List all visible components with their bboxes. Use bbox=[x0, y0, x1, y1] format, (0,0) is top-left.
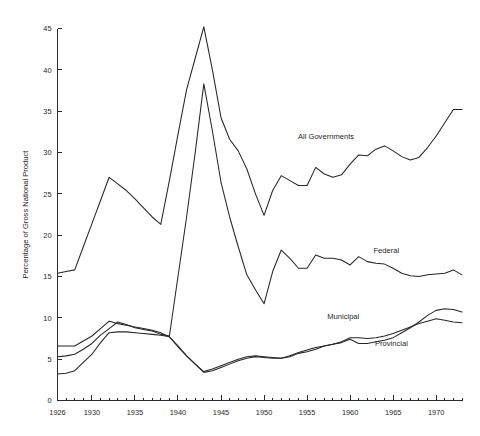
x-tick-label: 1940 bbox=[170, 408, 186, 417]
series-line-federal bbox=[58, 84, 463, 357]
y-tick-label: 10 bbox=[43, 314, 51, 323]
x-tick-label: 1930 bbox=[84, 408, 100, 417]
y-tick-label: 45 bbox=[43, 24, 51, 33]
y-tick-label: 0 bbox=[47, 396, 51, 405]
y-tick-label: 35 bbox=[43, 107, 51, 116]
line-chart: 0510152025303540451926193019351940194519… bbox=[0, 0, 480, 436]
x-tick-label: 1926 bbox=[49, 408, 65, 417]
x-tick-label: 1945 bbox=[213, 408, 229, 417]
series-label-federal: Federal bbox=[373, 246, 399, 255]
y-axis-title-text: Percentage of Gross National Product bbox=[21, 150, 30, 279]
y-tick-label: 5 bbox=[47, 355, 51, 364]
y-tick-label: 15 bbox=[43, 272, 51, 281]
chart-container: 0510152025303540451926193019351940194519… bbox=[0, 0, 480, 436]
series-label-all-governments: All Governments bbox=[298, 132, 354, 141]
y-tick-label: 20 bbox=[43, 231, 51, 240]
series-lines bbox=[58, 27, 463, 374]
y-axis-title: Percentage of Gross National Product bbox=[21, 150, 30, 279]
x-tick-label: 1960 bbox=[342, 408, 358, 417]
y-tick-label: 30 bbox=[43, 148, 51, 157]
y-tick-label: 25 bbox=[43, 190, 51, 199]
x-tick-label: 1970 bbox=[428, 408, 444, 417]
y-tick-label: 40 bbox=[43, 66, 51, 75]
x-tick-label: 1935 bbox=[127, 408, 143, 417]
x-tick-label: 1955 bbox=[299, 408, 315, 417]
series-label-provincial: Provincial bbox=[375, 339, 408, 348]
series-label-municipal: Municipal bbox=[327, 312, 359, 321]
x-tick-label: 1950 bbox=[256, 408, 272, 417]
x-tick-label: 1965 bbox=[385, 408, 401, 417]
series-line-all-governments bbox=[58, 27, 463, 273]
series-labels: All GovernmentsFederalMunicipalProvincia… bbox=[298, 132, 408, 348]
